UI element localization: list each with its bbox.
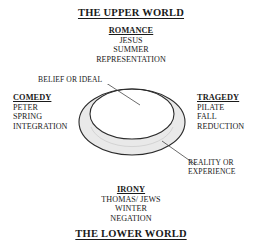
quadrant-right-item-0: PILATE	[197, 103, 244, 113]
quadrant-bottom-item-0: THOMAS/ JEWS	[101, 195, 160, 205]
annotation-reality-or-experience-line-1: REALITY OR	[188, 158, 235, 167]
quadrant-bottom-irony: IRONY THOMAS/ JEWS WINTER NEGATION	[101, 185, 160, 223]
annotation-belief-or-ideal-line-1: BELIEF OR IDEAL	[38, 75, 102, 84]
quadrant-bottom-item-2: NEGATION	[101, 214, 160, 224]
quadrant-left-item-2: INTEGRATION	[13, 122, 68, 132]
annotation-reality-or-experience-line-2: EXPERIENCE	[188, 167, 235, 176]
mythos-ring-figure	[78, 84, 196, 166]
quadrant-left-heading: COMEDY	[13, 93, 68, 103]
quadrant-bottom-heading: IRONY	[101, 185, 160, 195]
quadrant-right-heading: TRAGEDY	[197, 93, 244, 103]
ring-svg	[78, 84, 196, 166]
lower-world-title: THE LOWER WORLD	[75, 228, 186, 240]
quadrant-left-comedy: COMEDY PETER SPRING INTEGRATION	[13, 93, 68, 131]
quadrant-top-item-0: JESUS	[96, 36, 166, 46]
quadrant-right-tragedy: TRAGEDY PILATE FALL REDUCTION	[197, 93, 244, 131]
diagram-canvas: THE UPPER WORLD ROMANCE JESUS SUMMER REP…	[0, 0, 263, 246]
quadrant-right-item-1: FALL	[197, 112, 244, 122]
annotation-reality-or-experience: REALITY OR EXPERIENCE	[188, 158, 235, 177]
quadrant-top-item-2: REPRESENTATION	[96, 55, 166, 65]
quadrant-top-romance: ROMANCE JESUS SUMMER REPRESENTATION	[96, 26, 166, 64]
quadrant-bottom-item-1: WINTER	[101, 204, 160, 214]
quadrant-left-item-1: SPRING	[13, 112, 68, 122]
quadrant-top-heading: ROMANCE	[96, 26, 166, 36]
quadrant-right-item-2: REDUCTION	[197, 122, 244, 132]
quadrant-left-item-0: PETER	[13, 103, 68, 113]
annotation-belief-or-ideal: BELIEF OR IDEAL	[38, 75, 102, 84]
upper-world-title: THE UPPER WORLD	[78, 7, 184, 19]
quadrant-top-item-1: SUMMER	[96, 45, 166, 55]
